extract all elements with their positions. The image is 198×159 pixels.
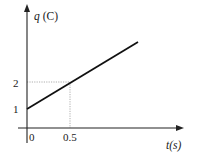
x-tick-0-5: 0.5	[63, 131, 77, 143]
x-tick-0: 0	[29, 131, 35, 143]
charge-time-chart: q (C) t(s) 2 1 0 0.5	[0, 0, 198, 159]
x-axis-arrow-icon	[176, 125, 184, 131]
y-axis-label: q (C)	[34, 10, 58, 23]
data-line-q-vs-t	[27, 42, 138, 109]
y-axis-arrow-icon	[24, 4, 30, 12]
y-tick-1: 1	[13, 103, 19, 115]
x-axis-label: t(s)	[166, 139, 182, 152]
y-tick-2: 2	[13, 77, 19, 89]
